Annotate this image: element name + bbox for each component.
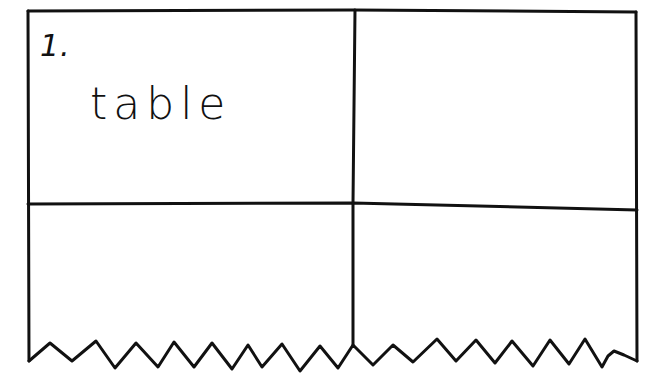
frame-right-edge (636, 12, 637, 361)
column-divider (353, 10, 355, 345)
frame-left-edge (28, 11, 29, 361)
frame-top-edge (28, 10, 636, 12)
row-divider (28, 203, 637, 210)
table-sketch-frame (0, 0, 649, 389)
torn-bottom-edge (29, 339, 637, 371)
cell-number: 1. (40, 28, 71, 63)
cell-word: table (90, 78, 231, 129)
